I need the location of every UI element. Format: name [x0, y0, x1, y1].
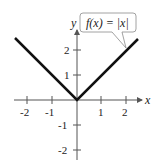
y-tick-label: 1 — [64, 69, 70, 81]
x-tick-label: 2 — [122, 106, 128, 118]
abs-value-graph: -2 -1 1 2 2 1 -1 -2 x y f(x) = |x| — [0, 0, 157, 165]
x-tick-label: -1 — [45, 106, 54, 118]
y-tick-label: -2 — [58, 144, 67, 156]
function-label: f(x) = |x| — [86, 16, 129, 30]
function-callout: f(x) = |x| — [80, 13, 136, 48]
y-axis-label: y — [70, 16, 77, 30]
x-tick-label: -2 — [20, 106, 29, 118]
y-tick-label: 2 — [64, 44, 70, 56]
x-tick-label: 1 — [98, 106, 104, 118]
y-tick-label: -1 — [58, 119, 67, 131]
x-axis-label: x — [144, 93, 151, 107]
